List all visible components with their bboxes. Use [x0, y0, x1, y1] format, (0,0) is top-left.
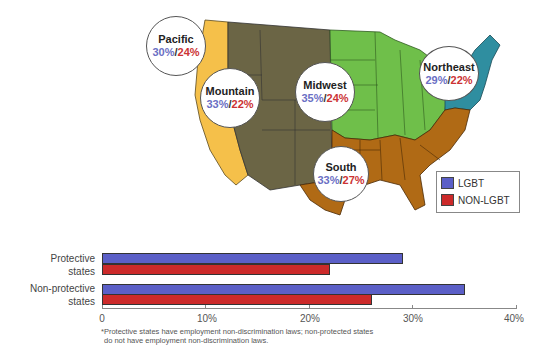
bar-non-protective-non-lgbt — [102, 294, 372, 305]
legend-item-lgbt: LGBT — [441, 177, 484, 189]
non-lgbt-value: 24% — [327, 92, 349, 104]
lgbt-value: 33% — [206, 98, 228, 110]
legend-swatch-non-lgbt — [441, 194, 454, 206]
bar-protective-non-lgbt — [102, 264, 330, 275]
x-tick-label: 40% — [504, 313, 524, 324]
x-tick-label: 0 — [99, 313, 105, 324]
region-bubble-midwest: Midwest 35%/24% — [295, 62, 355, 122]
region-bubble-northeast: Northeast 29%/22% — [419, 46, 479, 101]
region-bubble-mountain: Mountain 33%/22% — [200, 68, 260, 128]
legend-item-non-lgbt: NON-LGBT — [441, 194, 510, 206]
lgbt-value: 35% — [301, 92, 323, 104]
region-name: Northeast — [423, 61, 474, 74]
category-label-protective: Protective states — [2, 252, 95, 278]
region-name: South — [325, 161, 356, 174]
x-tick-label: 10% — [197, 313, 217, 324]
non-lgbt-value: 22% — [451, 74, 473, 86]
region-name: Pacific — [158, 33, 193, 46]
x-tick-label: 30% — [403, 313, 423, 324]
footnote: *Protective states have employment non-d… — [101, 327, 461, 345]
chart-legend: LGBT NON-LGBT — [436, 171, 520, 213]
non-lgbt-value: 22% — [232, 98, 254, 110]
x-tick — [516, 305, 517, 309]
region-name: Mountain — [206, 85, 255, 98]
lgbt-value: 33% — [317, 174, 339, 186]
non-lgbt-value: 27% — [343, 174, 365, 186]
x-tick — [309, 305, 310, 309]
x-tick — [205, 305, 206, 309]
region-bubble-south: South 33%/27% — [313, 146, 369, 202]
lgbt-value: 29% — [425, 74, 447, 86]
category-label-non-protective: Non-protective states — [2, 282, 95, 308]
lgbt-value: 30% — [152, 46, 174, 58]
region-name: Midwest — [303, 79, 346, 92]
x-tick — [102, 305, 103, 309]
legend-swatch-lgbt — [441, 177, 454, 189]
bar-protective-lgbt — [102, 253, 403, 264]
x-tick-label: 20% — [300, 313, 320, 324]
region-bubble-pacific: Pacific 30%/24% — [146, 16, 206, 76]
x-tick — [412, 305, 413, 309]
non-lgbt-value: 24% — [178, 46, 200, 58]
